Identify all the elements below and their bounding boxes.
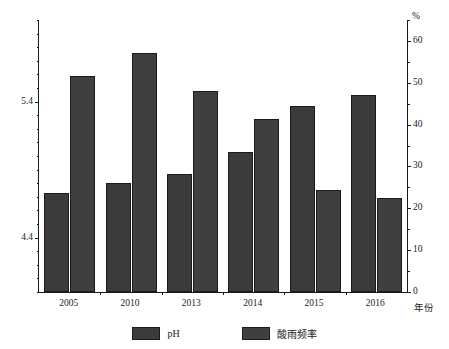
left-axis-tick (37, 210, 40, 211)
legend-label-acid-rain-frequency: 酸雨频率 (277, 326, 317, 341)
right-axis-tick-label: 0 (413, 287, 418, 297)
left-axis-tick (37, 129, 40, 130)
bar-ph-2013 (167, 174, 192, 292)
right-axis-tick (407, 271, 410, 272)
bar-acid-rain-frequency-2014 (254, 119, 279, 292)
acid-rain-chart: 4.45.40102030405060 % 年份 pH 酸雨频率 2005201… (0, 0, 449, 349)
left-axis-tick (37, 292, 40, 293)
x-axis-tick (346, 292, 347, 295)
right-axis-tick (407, 292, 411, 293)
left-axis-tick (37, 265, 40, 266)
left-axis-tick (37, 34, 40, 35)
right-axis-tick-label: 10 (413, 245, 423, 255)
left-axis-tick (37, 278, 40, 279)
right-axis-tick (407, 125, 411, 126)
legend-swatch-acid-rain-frequency (242, 327, 270, 340)
left-axis-tick (37, 61, 40, 62)
left-axis-tick (35, 238, 39, 239)
left-axis-tick (37, 183, 40, 184)
x-axis-label-2014: 2014 (222, 298, 283, 308)
right-axis-tick-label: 60 (413, 36, 423, 46)
right-axis-tick (407, 166, 411, 167)
x-axis-label-2016: 2016 (345, 298, 406, 308)
right-axis-tick-label: 50 (413, 78, 423, 88)
right-axis-tick-label: 20 (413, 203, 423, 213)
left-axis-tick (37, 20, 40, 21)
left-axis-tick (37, 156, 40, 157)
right-axis-tick (407, 41, 411, 42)
right-axis-tick (407, 208, 411, 209)
x-axis-tick (223, 292, 224, 295)
left-axis-tick (35, 102, 39, 103)
bar-ph-2014 (228, 152, 253, 292)
x-axis-label-2010: 2010 (99, 298, 160, 308)
right-axis-tick (407, 20, 410, 21)
right-axis-tick (407, 229, 410, 230)
x-axis-tick (162, 292, 163, 295)
legend-item-ph: pH (132, 327, 179, 340)
right-axis-unit-label: % (412, 11, 420, 21)
left-axis-tick (37, 251, 40, 252)
bar-acid-rain-frequency-2010 (132, 53, 157, 292)
left-axis-tick (37, 224, 40, 225)
right-axis-tick (407, 146, 410, 147)
bar-acid-rain-frequency-2005 (70, 76, 95, 292)
left-axis-tick (37, 74, 40, 75)
right-axis-tick-label: 30 (413, 161, 423, 171)
plot-area: 4.45.40102030405060 (38, 20, 408, 293)
x-axis-tick (284, 292, 285, 295)
left-axis-tick-label: 5.4 (21, 97, 33, 107)
left-axis-tick (37, 88, 40, 89)
bar-ph-2010 (106, 183, 131, 292)
left-axis-tick-label: 4.4 (21, 233, 33, 243)
bar-acid-rain-frequency-2013 (193, 91, 218, 292)
chart-legend: pH 酸雨频率 (0, 326, 449, 341)
left-axis-tick (37, 47, 40, 48)
right-axis-tick (407, 62, 410, 63)
bar-acid-rain-frequency-2015 (316, 190, 341, 292)
x-axis-tick (100, 292, 101, 295)
left-axis-tick (37, 115, 40, 116)
left-axis-tick (37, 142, 40, 143)
legend-item-acid-rain-frequency: 酸雨频率 (242, 326, 317, 341)
x-axis-title: 年份 (414, 300, 434, 314)
right-axis-tick (407, 83, 411, 84)
legend-swatch-ph (132, 327, 160, 340)
left-axis-tick (37, 170, 40, 171)
x-axis-label-2005: 2005 (38, 298, 99, 308)
right-axis-tick (407, 250, 411, 251)
legend-label-ph: pH (167, 328, 179, 339)
x-axis-label-2013: 2013 (161, 298, 222, 308)
bar-ph-2005 (44, 193, 69, 292)
x-axis-label-2015: 2015 (283, 298, 344, 308)
right-axis-tick (407, 104, 410, 105)
right-axis-tick-label: 40 (413, 120, 423, 130)
bar-ph-2015 (290, 106, 315, 292)
bar-ph-2016 (351, 95, 376, 292)
right-axis-tick (407, 187, 410, 188)
bar-acid-rain-frequency-2016 (377, 198, 402, 292)
left-axis-tick (37, 197, 40, 198)
